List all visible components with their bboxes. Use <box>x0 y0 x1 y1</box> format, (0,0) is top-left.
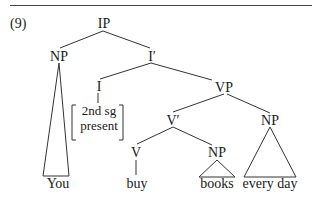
node-np-adjunct: NP <box>261 114 279 128</box>
leaf-every-day: every day <box>243 177 298 191</box>
feature-matrix: 2nd sg present <box>77 103 121 133</box>
feature-tense: present <box>77 118 121 133</box>
leaf-you: You <box>47 177 70 191</box>
tree-edges <box>0 0 312 205</box>
node-v-bar: V′ <box>166 114 179 128</box>
leaf-books: books <box>200 177 233 191</box>
node-i-bar: I′ <box>148 50 156 64</box>
node-np-subject: NP <box>50 50 68 64</box>
node-vp: VP <box>215 81 233 95</box>
leaf-buy: buy <box>127 177 148 191</box>
node-v: V <box>131 146 141 160</box>
node-i: I <box>97 80 102 94</box>
feature-person-number: 2nd sg <box>77 103 121 118</box>
node-np-object: NP <box>208 146 226 160</box>
node-ip: IP <box>98 17 110 31</box>
